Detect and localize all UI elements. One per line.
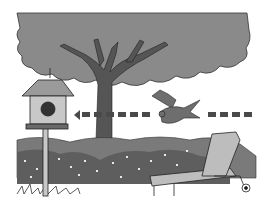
tree-canopy	[17, 13, 250, 86]
birdhouse-hole	[41, 102, 55, 116]
illustration-scene	[0, 0, 271, 211]
grass	[17, 184, 80, 194]
tree-trunk	[60, 39, 168, 140]
birdhouse-pole	[43, 128, 48, 196]
bird	[152, 90, 200, 123]
